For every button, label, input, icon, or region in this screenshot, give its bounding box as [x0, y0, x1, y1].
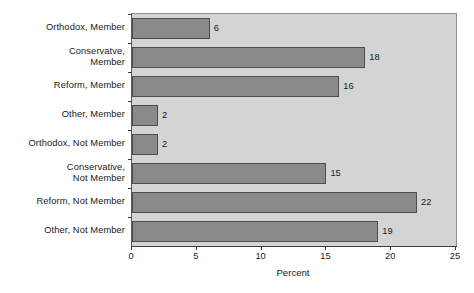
x-axis-tick-label: 25 [450, 252, 460, 261]
bar [132, 163, 326, 184]
y-axis-category-label: Other, Not Member [0, 216, 125, 245]
bar [132, 221, 378, 242]
category-label-line: Reform, Not Member [36, 196, 125, 207]
category-label-line: Orthodox, Not Member [28, 138, 125, 149]
bars-layer: 6181622152219 [132, 14, 456, 246]
x-axis-tick-label: 20 [385, 252, 395, 261]
x-axis-line [131, 246, 457, 247]
y-axis-tick [128, 188, 132, 189]
category-label-line: Not Member [67, 173, 125, 184]
y-axis-category-label: Reform, Not Member [0, 187, 125, 216]
bar-value-label: 2 [162, 140, 167, 149]
y-axis-category-label: Conservative,Not Member [0, 158, 125, 187]
x-axis-tick [131, 246, 132, 250]
category-label-line: Other, Member [62, 109, 125, 120]
bar-chart: Orthodox, MemberConservatve,MemberReform… [0, 0, 474, 293]
y-axis-tick [128, 14, 132, 15]
plot-area: 6181622152219 [131, 13, 457, 247]
bar-value-label: 2 [162, 111, 167, 120]
category-label-line: Conservatve, [69, 46, 125, 57]
x-axis-tick-label: 15 [320, 252, 330, 261]
bar-value-label: 19 [382, 227, 392, 236]
x-axis-tick [390, 246, 391, 250]
x-axis-tick [261, 246, 262, 250]
bar-value-label: 15 [330, 169, 340, 178]
bar-value-label: 6 [214, 24, 219, 33]
bar [132, 47, 365, 68]
bar [132, 105, 158, 126]
x-axis-tick-label: 0 [128, 252, 133, 261]
bar [132, 18, 210, 39]
y-axis-tick [128, 130, 132, 131]
y-axis-category-label: Orthodox, Not Member [0, 129, 125, 158]
category-label-line: Member [69, 57, 125, 68]
y-axis-category-label: Conservatve,Member [0, 42, 125, 71]
y-axis-tick [128, 101, 132, 102]
x-axis-tick-label: 10 [255, 252, 265, 261]
y-axis-tick [128, 43, 132, 44]
bar [132, 76, 339, 97]
y-axis-category-label: Other, Member [0, 100, 125, 129]
category-label-line: Other, Not Member [44, 225, 125, 236]
category-label-line: Orthodox, Member [46, 22, 125, 33]
y-axis-tick [128, 72, 132, 73]
x-axis-title: Percent [131, 268, 455, 278]
y-axis-tick [128, 217, 132, 218]
bar [132, 134, 158, 155]
bar-value-label: 22 [421, 198, 431, 207]
x-axis-tick [196, 246, 197, 250]
y-axis-category-label: Reform, Member [0, 71, 125, 100]
y-axis-category-label: Orthodox, Member [0, 13, 125, 42]
x-axis-tick-label: 5 [193, 252, 198, 261]
category-label-line: Conservative, [67, 162, 125, 173]
category-label-line: Reform, Member [54, 80, 125, 91]
y-axis-tick [128, 159, 132, 160]
x-axis-tick [455, 246, 456, 250]
x-axis-tick [325, 246, 326, 250]
bar-value-label: 18 [369, 53, 379, 62]
bar-value-label: 16 [343, 82, 353, 91]
bar [132, 192, 417, 213]
y-axis-category-labels: Orthodox, MemberConservatve,MemberReform… [0, 13, 125, 245]
